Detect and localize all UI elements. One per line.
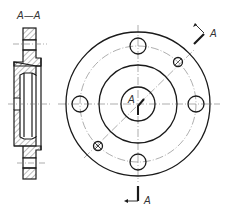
- top-bolt-hole-section: [23, 40, 36, 50]
- center-label: A: [127, 94, 135, 105]
- lower-hub-section: [14, 110, 36, 146]
- cut-marker-top: [193, 23, 204, 44]
- top-rim-section: [23, 28, 36, 40]
- cut-marker-bottom-label: A: [143, 195, 151, 206]
- upper-hub-section: [14, 62, 36, 98]
- bottom-rim-section: [23, 168, 36, 179]
- cut-marker-top-label: A: [209, 28, 217, 39]
- section-view: [14, 28, 41, 179]
- front-view: A A A: [58, 23, 220, 206]
- cut-line-center: [138, 99, 144, 115]
- cut-marker-bottom: [124, 186, 138, 203]
- flange-drawing: A—A: [0, 0, 226, 215]
- lower-body-section: [14, 146, 41, 158]
- section-label: A—A: [16, 10, 41, 21]
